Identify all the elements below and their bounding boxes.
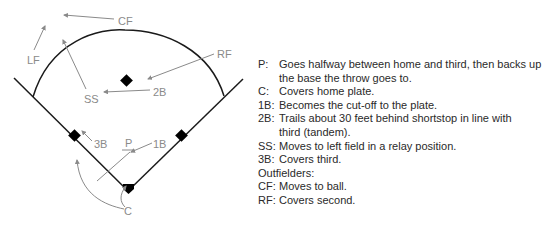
note-pitcher: P: Goes halfway between home and third, … <box>258 58 553 85</box>
third-baseman-arrow <box>82 131 92 141</box>
note-first-base: 1B: Becomes the cut-off to the plate. <box>258 99 553 113</box>
note-right-field: RF: Covers second. <box>258 194 553 208</box>
home-plate-icon <box>123 184 134 194</box>
baseball-field-diagram: CF LF RF SS 2B 3B P 1B C <box>0 0 250 225</box>
second-baseman-label: 2B <box>153 86 166 98</box>
note-key: SS: <box>258 140 279 154</box>
cf-label: CF <box>118 15 133 27</box>
rf-label: RF <box>217 48 232 60</box>
second-base-icon <box>120 74 133 87</box>
lf-label: LF <box>27 54 40 66</box>
note-text: Goes halfway between home and third, the… <box>279 58 553 85</box>
first-baseman-arrow <box>131 143 152 152</box>
catcher-label: C <box>124 205 132 217</box>
position-notes: P: Goes halfway between home and third, … <box>258 58 553 208</box>
note-key: 3B: <box>258 153 279 167</box>
ss-label: SS <box>84 93 99 105</box>
note-text: Covers third. <box>279 153 553 167</box>
note-center-field: CF: Moves to ball. <box>258 180 553 194</box>
catcher-arc-arrow <box>77 160 124 209</box>
note-key: C: <box>258 85 279 99</box>
note-key: 1B: <box>258 99 279 113</box>
note-text: Trails about 30 feet behind shortstop in… <box>279 112 553 139</box>
outfield-fence-arc <box>33 30 224 97</box>
third-base-icon <box>68 129 81 142</box>
lf-arrow <box>34 26 45 50</box>
note-text: Covers home plate. <box>279 85 553 99</box>
outfielders-heading: Outfielders: <box>258 167 553 181</box>
rf-arrow <box>148 54 214 79</box>
cf-arrow <box>64 15 114 19</box>
note-key: 2B: <box>258 112 279 139</box>
note-catcher: C: Covers home plate. <box>258 85 553 99</box>
note-text: Becomes the cut-off to the plate. <box>279 99 553 113</box>
note-shortstop: SS: Moves to left field in a relay posit… <box>258 140 553 154</box>
second-baseman-arrow <box>104 90 150 92</box>
note-key: P: <box>258 58 279 85</box>
third-baseman-label: 3B <box>94 138 107 150</box>
note-third-base: 3B: Covers third. <box>258 153 553 167</box>
note-key: RF: <box>258 194 279 208</box>
note-second-base: 2B: Trails about 30 feet behind shortsto… <box>258 112 553 139</box>
note-text: Moves to ball. <box>279 180 553 194</box>
note-text: Covers second. <box>279 194 553 208</box>
pitcher-label: P <box>125 137 132 149</box>
note-key: CF: <box>258 180 279 194</box>
ss-arrow <box>63 40 86 89</box>
first-base-icon <box>175 129 188 142</box>
first-baseman-label: 1B <box>153 138 166 150</box>
note-text: Moves to left field in a relay position. <box>279 140 553 154</box>
